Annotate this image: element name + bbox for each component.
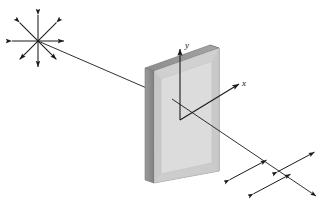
plate-inner-left-shade [154,71,161,183]
plate-inner-window [161,61,212,174]
plate-inner-right-shade [212,48,219,171]
plate-left-thickness-face [145,68,154,183]
unpolarized-light-starburst [12,15,64,67]
x-axis-label: x [241,78,246,88]
polarizer-plate [145,45,219,183]
diagram-canvas: y x [0,0,327,212]
polarizer-diagram-figure: y x [0,0,327,212]
y-axis-label: y [184,40,189,50]
